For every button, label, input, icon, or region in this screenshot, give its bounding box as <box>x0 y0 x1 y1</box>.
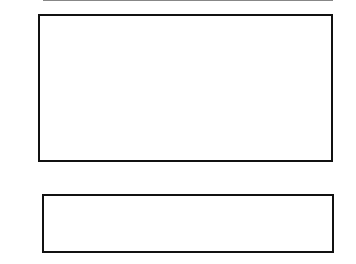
section-background <box>43 195 333 252</box>
figure-canvas <box>0 0 356 264</box>
gravity-profile-plot <box>39 15 332 161</box>
top-plot-frame <box>39 15 332 161</box>
